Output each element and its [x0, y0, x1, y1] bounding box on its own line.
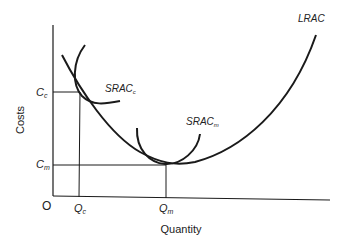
srac-c-curve	[75, 45, 120, 103]
y-axis-label: Costs	[14, 105, 26, 134]
cost-curves-diagram: Costs Quantity O Cc Cm Qc Qm LRAC SRACc …	[0, 0, 343, 248]
cm-label: Cm	[36, 158, 50, 171]
qc-guide-vertical	[79, 92, 80, 197]
origin-label: O	[42, 199, 51, 213]
cc-label: Cc	[36, 86, 48, 99]
x-axis-label: Quantity	[161, 223, 202, 235]
qm-label: Qm	[159, 202, 174, 215]
srac-m-label: SRACm	[186, 116, 219, 128]
srac-c-label: SRACc	[105, 83, 136, 95]
lrac-label: LRAC	[298, 13, 325, 24]
qc-label: Qc	[74, 202, 87, 215]
lrac-curve	[62, 35, 316, 164]
x-axis	[53, 196, 330, 200]
srac-m-curve	[137, 128, 200, 164]
